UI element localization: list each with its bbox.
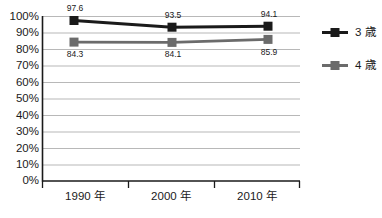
- value-label-3sai-2010: 94.1: [261, 9, 278, 19]
- legend-item-4sai[interactable]: 4 歳: [322, 59, 377, 71]
- series-3sai-marker-2: [264, 22, 273, 31]
- series-4sai-marker-0: [70, 38, 79, 47]
- series-4sai-marker-2: [264, 35, 273, 44]
- value-label-3sai-1990: 97.6: [67, 3, 84, 13]
- legend-label-3sai: 3 歳: [355, 26, 377, 38]
- legend-marker-3sai: [331, 28, 340, 37]
- y-tick-40: 40%: [16, 109, 39, 121]
- x-axis-labels: 1990 年 2000 年 2010 年: [65, 189, 277, 202]
- x-tick-label-2000: 2000 年: [151, 189, 191, 202]
- series-4sai-marker-1: [168, 38, 177, 47]
- x-tickmarks: [43, 181, 300, 188]
- y-tick-30: 30%: [16, 125, 39, 137]
- y-tick-70: 70%: [16, 59, 39, 71]
- y-tick-100: 100%: [10, 10, 39, 22]
- y-tick-80: 80%: [16, 43, 39, 55]
- value-label-4sai-2000: 84.1: [165, 49, 182, 59]
- series-4sai: [70, 35, 273, 47]
- value-label-4sai-1990: 84.3: [67, 49, 84, 59]
- legend-marker-4sai: [331, 61, 340, 70]
- x-tick-label-1990: 1990 年: [65, 189, 105, 202]
- y-tick-90: 90%: [16, 26, 39, 38]
- line-chart: 100% 90% 80% 70% 60% 50% 40% 30% 20% 10%…: [0, 0, 382, 218]
- x-tick-label-2010: 2010 年: [237, 189, 277, 202]
- series-4sai-value-labels: 84.3 84.1 85.9: [67, 47, 278, 59]
- value-label-4sai-2010: 85.9: [261, 47, 278, 57]
- legend-label-4sai: 4 歳: [355, 59, 377, 71]
- y-tick-50: 50%: [16, 92, 39, 104]
- series-3sai-marker-0: [70, 16, 79, 25]
- series-3sai-marker-1: [168, 23, 177, 32]
- value-label-3sai-2000: 93.5: [165, 10, 182, 20]
- legend-item-3sai[interactable]: 3 歳: [322, 26, 377, 38]
- y-tick-20: 20%: [16, 142, 39, 154]
- y-tick-60: 60%: [16, 76, 39, 88]
- y-tick-0: 0%: [22, 174, 39, 186]
- series-3sai-value-labels: 97.6 93.5 94.1: [67, 3, 278, 20]
- y-tick-10: 10%: [16, 158, 39, 170]
- chart-legend: 3 歳 4 歳: [322, 26, 377, 71]
- chart-canvas: 100% 90% 80% 70% 60% 50% 40% 30% 20% 10%…: [0, 0, 382, 218]
- y-axis-labels: 100% 90% 80% 70% 60% 50% 40% 30% 20% 10%…: [10, 10, 39, 187]
